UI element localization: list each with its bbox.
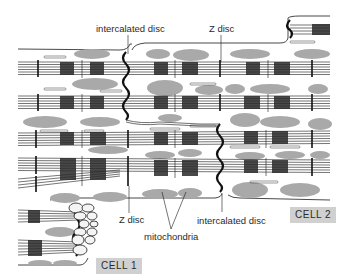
- label-z-disc-top: Z disc: [209, 24, 234, 34]
- label-intercalated-disc-top: intercalated disc: [96, 24, 165, 34]
- label-z-disc-bottom: Z disc: [119, 215, 144, 225]
- label-mitochondria: mitochondria: [144, 232, 198, 242]
- label-cell-1: CELL 1: [96, 258, 142, 274]
- label-intercalated-disc-bottom: intercalated disc: [197, 216, 266, 226]
- cardiac-muscle-diagram: intercalated disc Z disc Z disc mitochon…: [0, 0, 343, 280]
- cell1-junction: [69, 203, 98, 255]
- label-cell-2: CELL 2: [290, 207, 336, 223]
